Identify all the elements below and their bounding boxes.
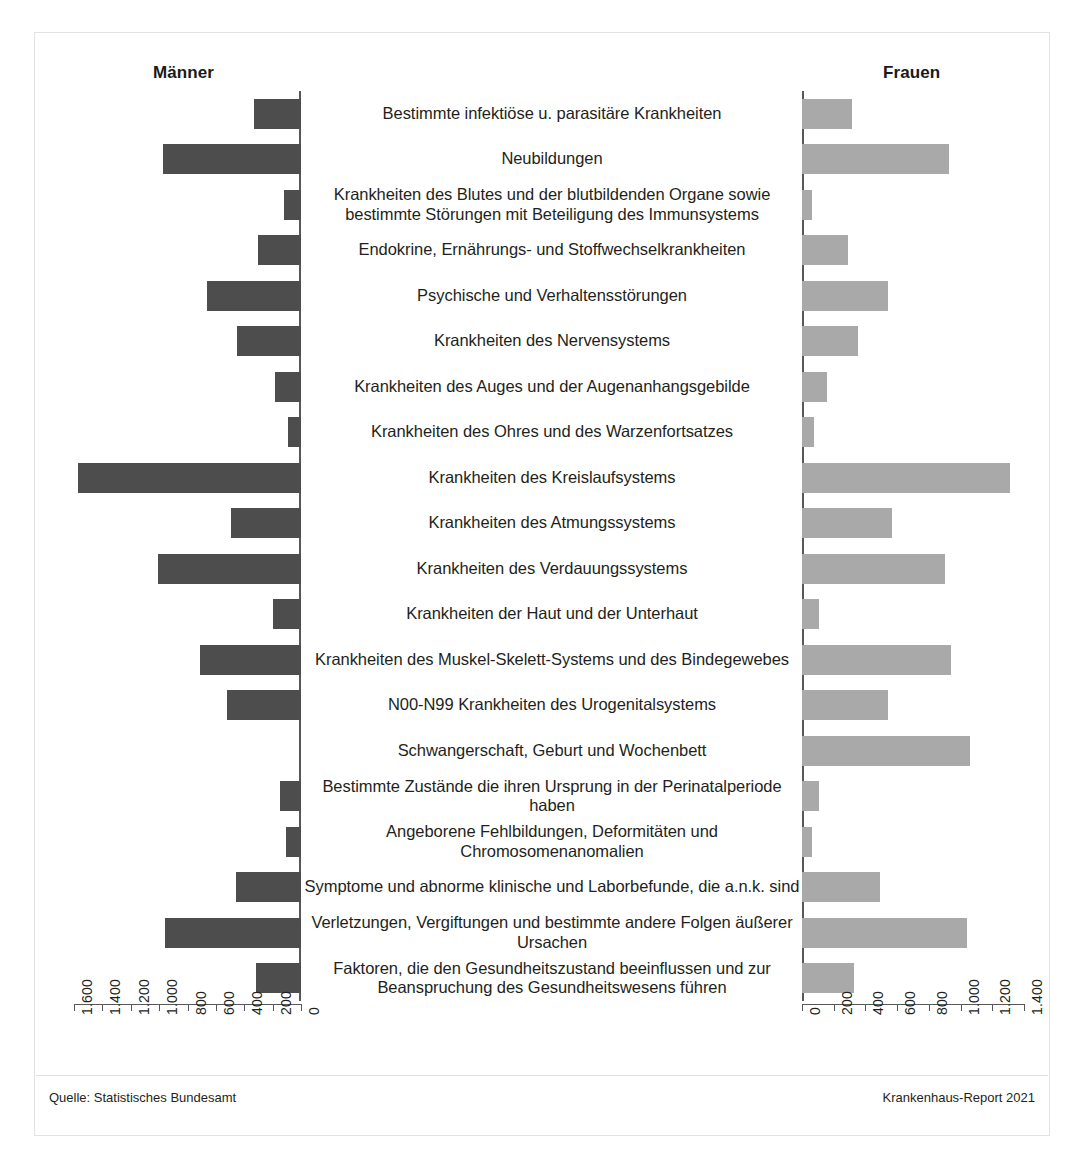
- bar-row: [74, 819, 301, 865]
- bar: [802, 235, 848, 265]
- category-label: Krankheiten des Blutes und der blutbilde…: [302, 185, 802, 224]
- bar: [163, 144, 301, 174]
- axis-tick: [897, 1004, 898, 1011]
- axis-tick: [244, 1004, 245, 1011]
- bar: [802, 372, 827, 402]
- axis-tick-label: 800: [193, 991, 209, 1015]
- bar-row: [74, 455, 301, 501]
- bar: [288, 417, 301, 447]
- bar-row: [802, 592, 1024, 638]
- category-label: Krankheiten der Haut und der Unterhaut: [302, 604, 802, 624]
- axis-tick-label: 0: [807, 1007, 823, 1015]
- bar-row: [802, 182, 1024, 228]
- bar-row: [802, 455, 1024, 501]
- footer-divider: [36, 1075, 1048, 1076]
- bar: [802, 554, 945, 584]
- panel-title-maenner: Männer: [153, 63, 214, 83]
- category-label: Bestimmte infektiöse u. parasitäre Krank…: [302, 104, 802, 124]
- bar-row: [802, 228, 1024, 274]
- axis-tick-label: 1.400: [1029, 979, 1045, 1015]
- category-label: N00-N99 Krankheiten des Urogenitalsystem…: [302, 695, 802, 715]
- axis-tick-label: 600: [221, 991, 237, 1015]
- bar: [802, 190, 812, 220]
- bar-row: [802, 410, 1024, 456]
- category-label: Faktoren, die den Gesundheitszustand bee…: [302, 959, 802, 998]
- axis-tick: [131, 1004, 132, 1011]
- bar-row: [74, 273, 301, 319]
- axis-tick: [301, 1004, 302, 1011]
- bar-row: [74, 91, 301, 137]
- axis-tick: [74, 1004, 75, 1011]
- axis-tick: [961, 1004, 962, 1011]
- bar-row: [74, 501, 301, 547]
- bar: [802, 326, 858, 356]
- bar: [275, 372, 301, 402]
- bar-row: [74, 865, 301, 911]
- bar: [802, 645, 951, 675]
- bar-row: [802, 137, 1024, 183]
- bar: [158, 554, 301, 584]
- bar: [802, 918, 967, 948]
- category-label: Krankheiten des Auges und der Augenanhan…: [302, 377, 802, 397]
- bar: [802, 827, 812, 857]
- panel-title-frauen: Frauen: [883, 63, 940, 83]
- category-label: Krankheiten des Nervensystems: [302, 331, 802, 351]
- category-label: Krankheiten des Kreislaufsystems: [302, 468, 802, 488]
- category-label: Symptome und abnorme klinische und Labor…: [302, 877, 802, 897]
- bar: [802, 99, 852, 129]
- bar-row: [802, 774, 1024, 820]
- category-label: Krankheiten des Ohres und des Warzenfort…: [302, 422, 802, 442]
- bar-row: [74, 774, 301, 820]
- bar: [284, 190, 301, 220]
- bar-row: [74, 728, 301, 774]
- bar: [258, 235, 301, 265]
- bar-row: [802, 683, 1024, 729]
- category-label: Bestimmte Zustände die ihren Ursprung in…: [302, 777, 802, 816]
- bar-row: [74, 319, 301, 365]
- axis-tick-label: 1.400: [107, 979, 123, 1015]
- bar: [165, 918, 301, 948]
- axis-tick-label: 800: [934, 991, 950, 1015]
- bar: [802, 599, 819, 629]
- bar-row: [74, 592, 301, 638]
- bar: [254, 99, 301, 129]
- axis-tick-label: 1.200: [997, 979, 1013, 1015]
- bar-row: [74, 910, 301, 956]
- axis-tick-label: 0: [306, 1007, 322, 1015]
- bar-row: [802, 501, 1024, 547]
- bar-row: [74, 683, 301, 729]
- bar: [231, 508, 301, 538]
- axis-tick: [216, 1004, 217, 1011]
- bar: [802, 281, 888, 311]
- axis-tick-label: 1.200: [136, 979, 152, 1015]
- bar: [802, 736, 970, 766]
- bar-row: [74, 637, 301, 683]
- axis-tick: [802, 1004, 803, 1011]
- axis-tick: [159, 1004, 160, 1011]
- bar-row: [74, 410, 301, 456]
- bar: [802, 508, 892, 538]
- tick-axis-maenner: 1.6001.4001.2001.0008006004002000: [74, 1004, 302, 1005]
- bar: [802, 463, 1010, 493]
- bar: [227, 690, 301, 720]
- category-label-column: Bestimmte infektiöse u. parasitäre Krank…: [302, 91, 802, 1001]
- axis-tick-label: 200: [839, 991, 855, 1015]
- plot-area-maenner: [74, 91, 301, 1001]
- footer-source: Quelle: Statistisches Bundesamt: [49, 1090, 236, 1105]
- bar: [237, 326, 301, 356]
- bar: [802, 417, 814, 447]
- chart-figure: Männer Frauen Bestimmte infektiöse u. pa…: [34, 32, 1050, 1136]
- bar-row: [74, 228, 301, 274]
- category-label: Krankheiten des Muskel-Skelett-Systems u…: [302, 650, 802, 670]
- axis-tick: [865, 1004, 866, 1011]
- axis-tick-label: 1.600: [79, 979, 95, 1015]
- axis-tick: [188, 1004, 189, 1011]
- bar-rows-maenner: [74, 91, 301, 1001]
- axis-tick-label: 400: [249, 991, 265, 1015]
- bar: [802, 144, 949, 174]
- axis-tick: [992, 1004, 993, 1011]
- bar-row: [802, 865, 1024, 911]
- axis-tick: [102, 1004, 103, 1011]
- category-label: Neubildungen: [302, 149, 802, 169]
- bar: [286, 827, 301, 857]
